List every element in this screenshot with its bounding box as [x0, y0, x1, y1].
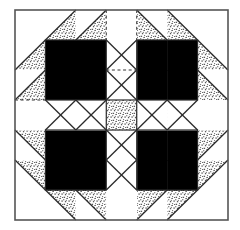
sashing-vertical-cell — [106, 190, 137, 220]
paw-bottom-left-pad — [76, 130, 107, 160]
sashing-horizontal-cell — [15, 100, 46, 130]
paw-top-right-pad — [137, 40, 168, 70]
paw-top-left-pad — [45, 70, 76, 100]
paw-top-right-pad — [167, 70, 198, 100]
paw-bottom-right-pad — [137, 130, 168, 160]
fabric-patch-layer — [15, 10, 228, 220]
screenshot-stage — [0, 0, 240, 230]
paw-top-left-pad — [45, 40, 76, 70]
sashing-horizontal-cell — [198, 100, 229, 130]
paw-top-right-pad — [167, 40, 198, 70]
paw-bottom-right-pad — [167, 130, 198, 160]
paw-bottom-right-corner-light — [198, 190, 229, 220]
bears-paw-quilt-block-diagram — [0, 0, 240, 230]
paw-top-left-corner-light — [15, 10, 46, 40]
paw-top-right-corner-light — [198, 10, 229, 40]
paw-bottom-left-pad — [76, 160, 107, 190]
paw-top-right-pad — [137, 70, 168, 100]
quilt-diagram-svg — [0, 0, 240, 230]
paw-bottom-left-pad — [45, 130, 76, 160]
sashing-vertical-cell — [106, 10, 137, 40]
paw-bottom-right-pad — [137, 160, 168, 190]
paw-bottom-left-corner-light — [15, 190, 46, 220]
paw-top-left-pad — [76, 70, 107, 100]
paw-top-left-pad — [76, 40, 107, 70]
center-square — [106, 100, 137, 130]
paw-bottom-left-pad — [45, 160, 76, 190]
paw-bottom-right-pad — [167, 160, 198, 190]
